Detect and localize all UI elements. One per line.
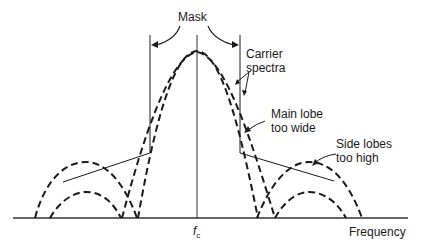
- center-frequency-subscript: c: [196, 231, 200, 240]
- carrier-arrowheads: [235, 79, 247, 96]
- carrier-spectra-label-line2: spectra: [246, 62, 285, 75]
- carrier-spectra-label-line1: Carrier: [246, 48, 283, 61]
- mask-label: Mask: [178, 11, 207, 24]
- center-frequency-label: fc: [193, 225, 200, 242]
- side-lobes-label-line2: too high: [336, 152, 379, 165]
- main-lobe-label-line1: Main lobe: [271, 108, 323, 121]
- side-lobes-pointer: [315, 154, 336, 163]
- carrier-spectra-side-lobes: [35, 162, 362, 218]
- main-lobe-pointer: [248, 121, 265, 130]
- frequency-axis-label: Frequency: [349, 226, 406, 239]
- side-lobes-label-line1: Side lobes: [336, 138, 392, 151]
- mask-arrows: [156, 26, 234, 45]
- spectrum-mask-diagram: [0, 0, 421, 250]
- carrier-spectra-main-lobes: [122, 51, 275, 218]
- main-lobe-label-line2: too wide: [271, 122, 316, 135]
